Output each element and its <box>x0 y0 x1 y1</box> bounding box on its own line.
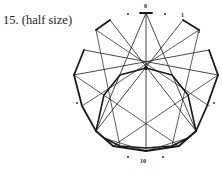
label-upper-right-b: 3 <box>197 28 200 34</box>
label-bottom: 10 <box>140 158 146 164</box>
geometric-line-diagram: 0 1 3 10 <box>0 0 222 176</box>
label-upper-right-a: 1 <box>181 12 184 18</box>
label-top: 0 <box>144 3 147 9</box>
